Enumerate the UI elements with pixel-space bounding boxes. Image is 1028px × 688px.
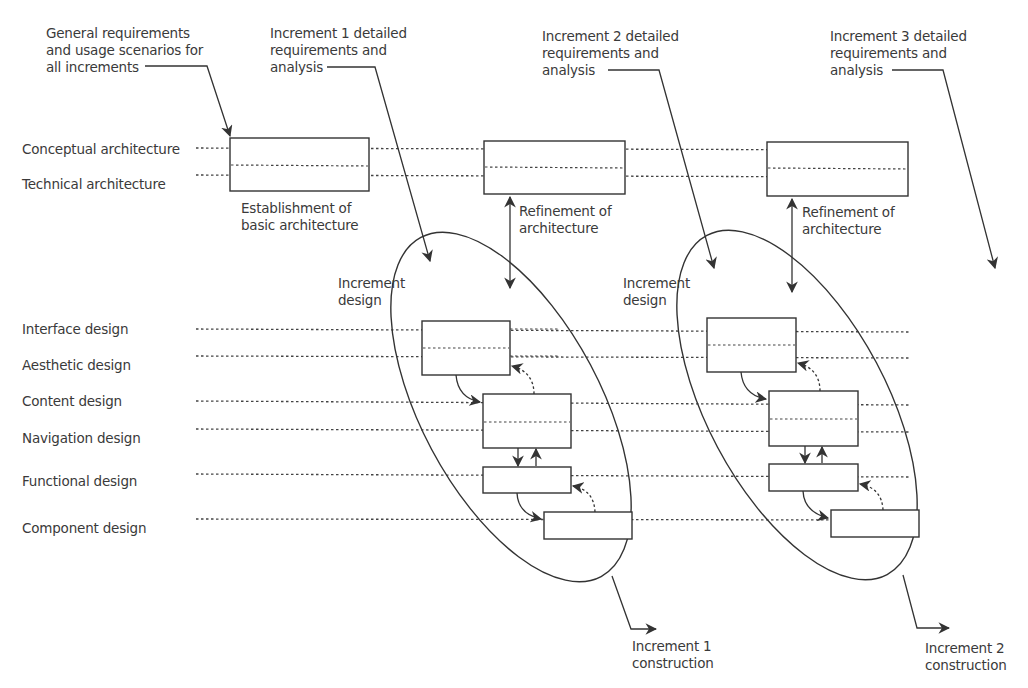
row-label-interface: Interface design	[22, 321, 128, 337]
row-label-component: Component design	[22, 520, 146, 536]
box-functional-1	[483, 467, 571, 493]
box-component-1	[544, 512, 632, 539]
construction-arrow-1	[612, 576, 656, 629]
annotation-general-requirements: General requirements and usage scenarios…	[46, 25, 203, 76]
diagram-canvas	[0, 0, 1028, 688]
annotation-inc3-requirements: Increment 3 detailed requirements and an…	[830, 28, 967, 79]
box-content-navigation-1	[483, 394, 571, 448]
annotation-basic-architecture: Establishment of basic architecture	[241, 200, 358, 234]
leader-general-requirements	[145, 66, 230, 136]
architecture-boxes	[230, 138, 908, 196]
annotation-inc1-requirements: Increment 1 detailed requirements and an…	[270, 25, 407, 76]
row-label-functional: Functional design	[22, 473, 137, 489]
row-label-aesthetic: Aesthetic design	[22, 357, 131, 373]
box-component-2	[831, 510, 919, 537]
increment-2-boxes	[707, 318, 919, 537]
row-label-technical: Technical architecture	[22, 176, 166, 192]
annotation-refinement-2: Refinement of architecture	[802, 204, 894, 238]
construction-arrow-2	[903, 575, 949, 628]
increment-1-boxes	[422, 321, 632, 539]
box-basic-architecture	[230, 138, 369, 191]
annotation-increment-design-2: Increment design	[623, 275, 690, 309]
annotation-inc1-construction: Increment 1 construction	[632, 638, 714, 672]
row-label-content: Content design	[22, 393, 122, 409]
row-label-navigation: Navigation design	[22, 430, 141, 446]
box-functional-2	[769, 464, 858, 491]
annotation-inc2-requirements: Increment 2 detailed requirements and an…	[542, 28, 679, 79]
lane-interface	[196, 329, 910, 332]
box-refinement-2	[767, 142, 908, 196]
lane-aesthetic	[196, 356, 910, 358]
annotation-inc2-construction: Increment 2 construction	[925, 640, 1007, 674]
annotation-refinement-1: Refinement of architecture	[519, 203, 611, 237]
annotation-increment-design-1: Increment design	[338, 275, 405, 309]
row-label-conceptual: Conceptual architecture	[22, 141, 180, 157]
